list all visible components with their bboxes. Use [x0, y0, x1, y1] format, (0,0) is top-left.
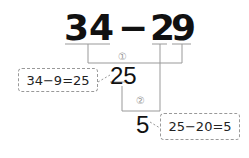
step1-result: 25	[110, 64, 137, 88]
step1-note: 34−9=25	[18, 68, 98, 92]
minus-sign: −	[118, 10, 148, 46]
minuend: 34	[64, 10, 114, 46]
step2-label: ②	[136, 96, 145, 106]
step2-result: 5	[136, 113, 149, 137]
subtrahend-ones: 9	[171, 10, 196, 46]
step2-note: 25−20=5	[160, 113, 240, 140]
step1-label: ①	[118, 52, 127, 62]
